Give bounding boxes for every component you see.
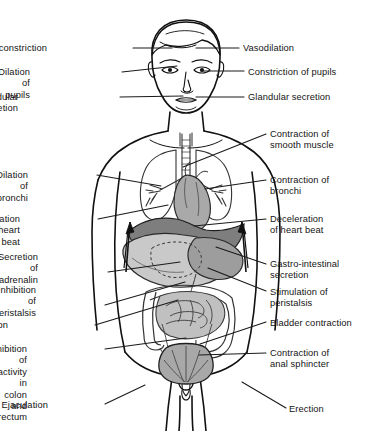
label-secretion-of-adrenalin: Secretion of adrenalin bbox=[0, 252, 38, 286]
label-vasoconstriction-head: Vasoconstriction bbox=[0, 43, 47, 54]
label-gastro-intestinal-secretion: Gastro-intestinal secretion bbox=[270, 259, 339, 282]
label-constriction-of-pupils: Constriction of pupils bbox=[248, 67, 336, 78]
label-contraction-of-anal-sphincter: Contraction of anal sphincter bbox=[270, 348, 329, 371]
leader-line-ejaculation bbox=[105, 385, 145, 404]
label-contraction-of-smooth-muscle: Contraction of smooth muscle bbox=[270, 129, 334, 152]
label-glandular-secretion-left: Glandular secretion bbox=[0, 92, 18, 115]
label-deceleration-of-heart-beat: Deceleration of heart beat bbox=[270, 214, 323, 237]
label-acceleration-of-heart-beat: Acceleration of heart beat bbox=[0, 214, 20, 248]
label-inhibition-of-peristalsis: Inhibition of peristalsis bbox=[0, 285, 36, 319]
label-inhibition-of-colon-rectum: Inhibition of activity in colon and rect… bbox=[0, 344, 27, 424]
label-bladder-contraction: Bladder contraction bbox=[270, 318, 352, 329]
label-contraction-of-bronchi: Contraction of bronchi bbox=[270, 175, 329, 198]
label-dilation-of-bronchi: Dilation of bronchi bbox=[0, 170, 28, 204]
label-stimulation-of-peristalsis: Stimulation of peristalsis bbox=[270, 287, 328, 310]
label-glandular-secretion-right: Glandular secretion bbox=[248, 92, 330, 103]
label-erection: Erection bbox=[289, 404, 324, 415]
label-vasodilation: Vasodilation bbox=[243, 43, 294, 54]
label-ejaculation: Ejaculation bbox=[1, 400, 48, 411]
leader-line-glandular-secretion-left bbox=[120, 96, 183, 97]
diagram-page: VasoconstrictionDilation of pupilsGlandu… bbox=[0, 0, 373, 431]
label-vasoconstriction-body: Vasoconstriction bbox=[0, 320, 8, 331]
leader-line-erection bbox=[242, 382, 286, 408]
